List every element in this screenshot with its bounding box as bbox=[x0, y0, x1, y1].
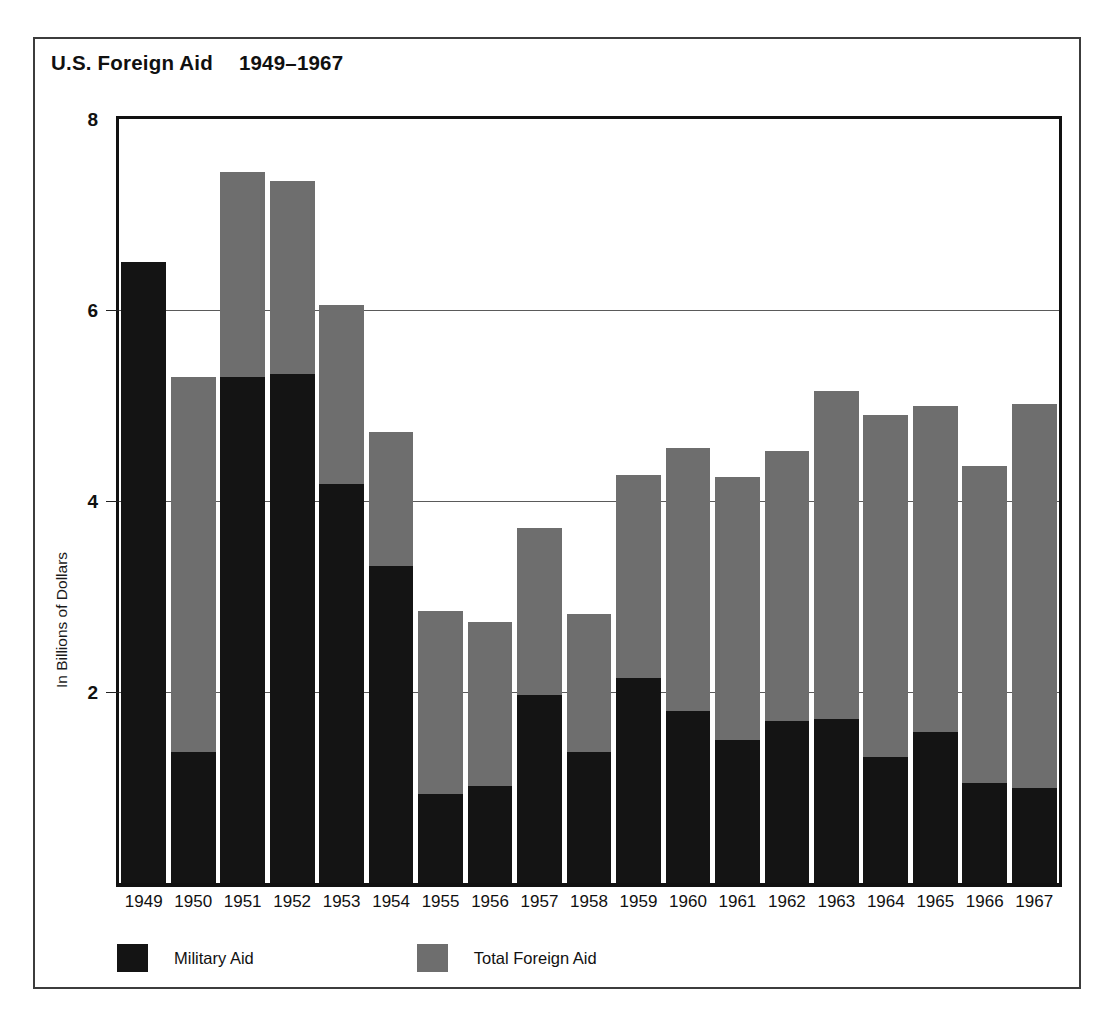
bar-group bbox=[517, 119, 562, 883]
bar-military-aid bbox=[567, 752, 612, 883]
plot-area: 8642 bbox=[116, 116, 1062, 887]
plot-inner: 8642 bbox=[119, 119, 1059, 883]
bar-military-aid bbox=[765, 721, 810, 883]
x-axis-label: 1962 bbox=[762, 893, 811, 910]
bar-group bbox=[765, 119, 810, 883]
x-axis-label: 1955 bbox=[416, 893, 465, 910]
x-axis-label: 1949 bbox=[119, 893, 168, 910]
bar-military-aid bbox=[121, 262, 166, 883]
x-axis-label: 1951 bbox=[218, 893, 267, 910]
bar-group bbox=[369, 119, 414, 883]
bar-military-aid bbox=[369, 566, 414, 883]
bar-group bbox=[567, 119, 612, 883]
bar-military-aid bbox=[715, 740, 760, 883]
bar-group bbox=[962, 119, 1007, 883]
x-axis-label: 1964 bbox=[861, 893, 910, 910]
bar-military-aid bbox=[913, 732, 958, 883]
bar-group bbox=[1012, 119, 1057, 883]
legend-swatch-military-icon bbox=[117, 944, 148, 972]
bar-military-aid bbox=[270, 374, 315, 883]
bar-group bbox=[171, 119, 216, 883]
x-axis-labels: 1949195019511952195319541955195619571958… bbox=[116, 893, 1062, 923]
x-axis-label: 1953 bbox=[317, 893, 366, 910]
bar-military-aid bbox=[814, 719, 859, 883]
y-axis-title: In Billions of Dollars bbox=[53, 552, 71, 688]
y-axis-tick-mark bbox=[106, 310, 119, 311]
legend-item-total: Total Foreign Aid bbox=[417, 944, 597, 972]
x-axis-label: 1967 bbox=[1010, 893, 1059, 910]
x-axis-label: 1952 bbox=[267, 893, 316, 910]
bar-military-aid bbox=[962, 783, 1007, 883]
bar-military-aid bbox=[468, 786, 513, 883]
bar-group bbox=[863, 119, 908, 883]
bar-military-aid bbox=[1012, 788, 1057, 884]
bar-group bbox=[616, 119, 661, 883]
bar-group bbox=[715, 119, 760, 883]
x-axis-label: 1960 bbox=[663, 893, 712, 910]
bar-group bbox=[319, 119, 364, 883]
y-axis-tick-label: 4 bbox=[87, 492, 98, 511]
page-title: U.S. Foreign Aid bbox=[51, 51, 213, 75]
legend-item-military: Military Aid bbox=[117, 944, 254, 972]
legend-label-total: Total Foreign Aid bbox=[474, 949, 597, 968]
bars-container bbox=[119, 119, 1059, 883]
title-year-range: 1949–1967 bbox=[239, 51, 343, 75]
y-axis-title-wrap: In Billions of Dollars bbox=[62, 620, 82, 640]
y-axis-tick-mark bbox=[106, 501, 119, 502]
y-axis-tick-mark bbox=[106, 692, 119, 693]
bar-group bbox=[814, 119, 859, 883]
legend-label-military: Military Aid bbox=[174, 949, 254, 968]
bar-group bbox=[270, 119, 315, 883]
x-axis-label: 1966 bbox=[960, 893, 1009, 910]
y-axis-tick-label: 6 bbox=[87, 301, 98, 320]
y-axis-tick-label: 8 bbox=[87, 110, 98, 129]
bar-group bbox=[121, 119, 166, 883]
x-axis-label: 1961 bbox=[713, 893, 762, 910]
x-axis-label: 1957 bbox=[515, 893, 564, 910]
bar-military-aid bbox=[616, 678, 661, 883]
bar-military-aid bbox=[171, 752, 216, 883]
y-axis-tick-label: 2 bbox=[87, 683, 98, 702]
x-axis-label: 1958 bbox=[564, 893, 613, 910]
x-axis-label: 1963 bbox=[812, 893, 861, 910]
bar-military-aid bbox=[418, 794, 463, 883]
chart-legend: Military Aid Total Foreign Aid bbox=[117, 944, 597, 972]
bar-military-aid bbox=[666, 711, 711, 883]
bar-military-aid bbox=[220, 377, 265, 883]
bar-group bbox=[913, 119, 958, 883]
x-axis-label: 1965 bbox=[911, 893, 960, 910]
legend-swatch-total-icon bbox=[417, 944, 448, 972]
x-axis-label: 1950 bbox=[168, 893, 217, 910]
x-axis-label: 1959 bbox=[614, 893, 663, 910]
bar-military-aid bbox=[319, 484, 364, 883]
bar-group bbox=[468, 119, 513, 883]
bar-military-aid bbox=[517, 695, 562, 883]
bar-group bbox=[220, 119, 265, 883]
chart-title-row: U.S. Foreign Aid 1949–1967 bbox=[51, 51, 343, 75]
bar-group bbox=[418, 119, 463, 883]
chart-page: U.S. Foreign Aid 1949–1967 In Billions o… bbox=[0, 0, 1120, 1027]
bar-group bbox=[666, 119, 711, 883]
bar-military-aid bbox=[863, 757, 908, 883]
x-axis-label: 1956 bbox=[465, 893, 514, 910]
x-axis-label: 1954 bbox=[366, 893, 415, 910]
